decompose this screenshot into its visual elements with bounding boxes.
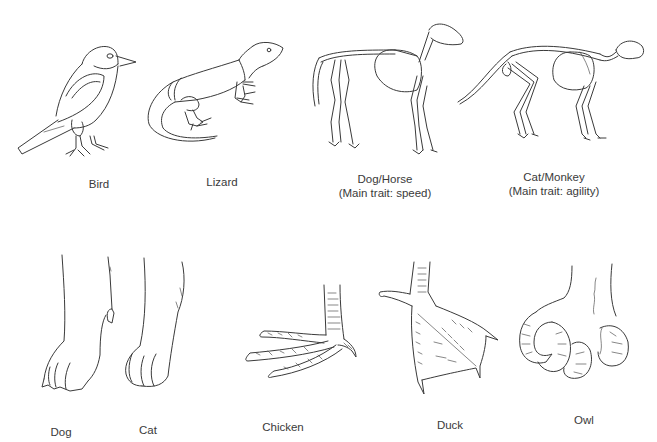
dog-horse-label-text: Dog/Horse xyxy=(339,172,432,186)
label-dog-horse: Dog/Horse (Main trait: speed) xyxy=(339,172,432,200)
chicken-foot-illustration xyxy=(244,285,359,380)
label-bird: Bird xyxy=(89,177,109,191)
label-cat-monkey: Cat/Monkey (Main trait: agility) xyxy=(509,170,600,198)
cat-paw-illustration xyxy=(122,258,192,388)
duck-foot-illustration xyxy=(376,262,501,397)
cat-monkey-illustration xyxy=(450,34,645,149)
dog-horse-illustration xyxy=(305,16,465,156)
duck-foot-label-text: Duck xyxy=(437,419,463,431)
bird-illustration xyxy=(14,36,139,156)
chicken-foot-drawing xyxy=(244,285,359,380)
label-chicken-foot: Chicken xyxy=(262,420,304,434)
cat-paw-drawing xyxy=(122,258,192,388)
label-owl-foot: Owl xyxy=(574,413,594,427)
label-cat-paw: Cat xyxy=(139,423,157,437)
cat-monkey-label-text: Cat/Monkey xyxy=(509,170,600,184)
dog-paw-label-text: Dog xyxy=(50,426,71,438)
owl-foot-illustration xyxy=(512,262,637,392)
label-lizard: Lizard xyxy=(206,175,237,189)
lizard-illustration xyxy=(145,38,290,153)
dog-horse-drawing xyxy=(305,16,465,156)
cat-paw-label-text: Cat xyxy=(139,424,157,436)
lizard-label-text: Lizard xyxy=(206,176,237,188)
duck-foot-drawing xyxy=(376,262,501,397)
cat-monkey-drawing xyxy=(450,34,645,149)
dog-horse-subtitle: (Main trait: speed) xyxy=(339,186,432,200)
owl-foot-drawing xyxy=(512,262,637,392)
cat-monkey-subtitle: (Main trait: agility) xyxy=(509,184,600,198)
lizard-drawing xyxy=(145,38,290,153)
dog-paw-drawing xyxy=(36,255,116,390)
label-duck-foot: Duck xyxy=(437,418,463,432)
label-dog-paw: Dog xyxy=(50,425,71,439)
dog-paw-illustration xyxy=(36,255,116,390)
bird-drawing xyxy=(14,36,139,156)
bird-label-text: Bird xyxy=(89,178,109,190)
owl-foot-label-text: Owl xyxy=(574,414,594,426)
chicken-foot-label-text: Chicken xyxy=(262,421,304,433)
